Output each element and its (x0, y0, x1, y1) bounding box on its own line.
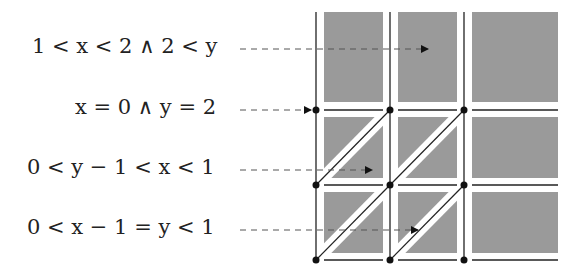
grid-diagram (0, 0, 583, 279)
